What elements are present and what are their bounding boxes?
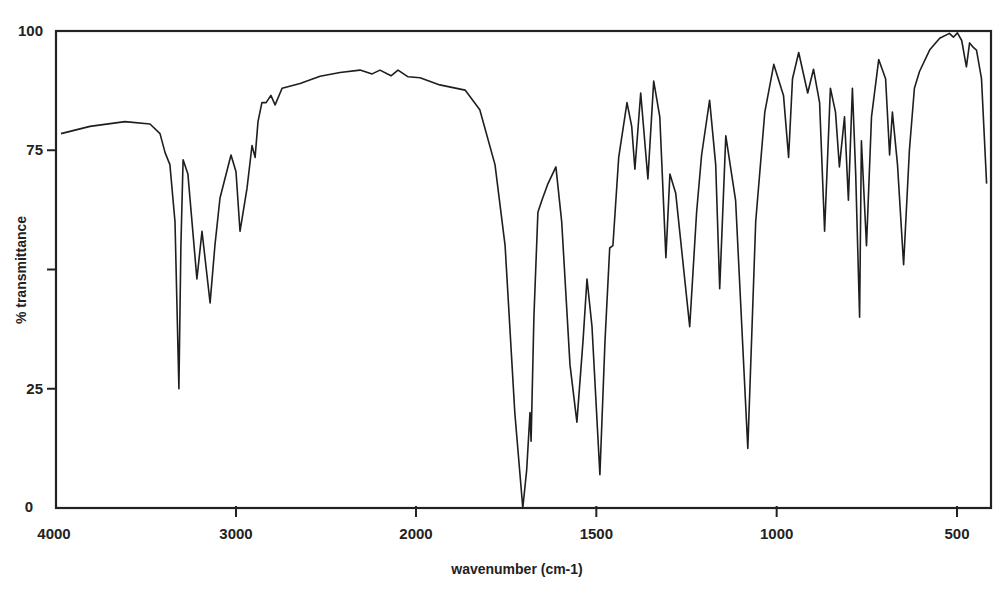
- x-axis-title: wavenumber (cm-1): [450, 561, 582, 577]
- x-tick-label: 4000: [37, 525, 70, 542]
- ir-spectrum-chart: 02575100 40003000200015001000500 wavenum…: [0, 0, 1001, 589]
- y-tick-label: 25: [26, 380, 43, 397]
- x-tick-label: 1000: [760, 525, 793, 542]
- y-tick-label: 75: [26, 141, 43, 158]
- spectrum-line: [61, 33, 987, 508]
- x-tick-label: 1500: [580, 525, 613, 542]
- y-tick-label: 0: [25, 498, 33, 515]
- x-tick-label: 2000: [399, 525, 432, 542]
- y-tick-label: 100: [18, 22, 43, 39]
- x-tick-label: 500: [944, 525, 969, 542]
- y-axis-title: % transmittance: [13, 216, 29, 324]
- x-axis-ticks: 40003000200015001000500: [37, 506, 969, 542]
- x-tick-label: 3000: [219, 525, 252, 542]
